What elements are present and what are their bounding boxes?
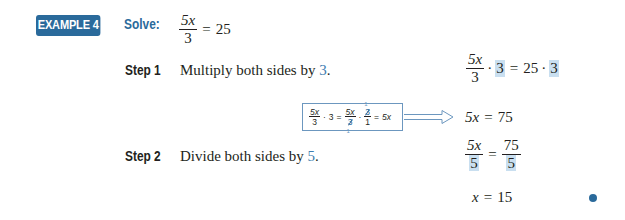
- factor: 3: [329, 112, 334, 122]
- callout-fraction-2: 5x 3 1: [345, 108, 356, 127]
- equals-sign: =: [374, 112, 379, 122]
- desc-suffix: .: [327, 62, 331, 78]
- arrow-right-icon: [404, 110, 454, 124]
- cancelled-numerator: 3: [365, 107, 370, 117]
- equals-sign: =: [510, 60, 518, 77]
- cancelled-denominator: 3: [348, 117, 353, 127]
- step-2-description: Divide both sides by 5.: [180, 148, 319, 165]
- step-1-work: 5x 3 · 3 = 25 · 3: [466, 52, 559, 85]
- equals-sign: =: [488, 146, 496, 163]
- numerator: 5x: [467, 137, 481, 153]
- desc-text: Divide both sides by: [180, 148, 308, 164]
- simplification-callout: 5x 3 · 3 = 5x 3 1 · 3 1 1 = 5x: [302, 103, 403, 131]
- highlighted-factor: 3: [495, 60, 505, 77]
- rhs-value: 25: [523, 60, 538, 77]
- lhs: 5x: [465, 109, 479, 126]
- solve-label: Solve:: [124, 16, 160, 32]
- equals-sign: =: [202, 21, 210, 38]
- step-1-label: Step 1: [125, 62, 161, 78]
- cancel-mark-bottom: 1: [347, 128, 350, 134]
- lhs-fraction: 5x 5: [465, 138, 483, 171]
- highlighted-denominator: 5: [469, 155, 479, 171]
- equals-sign: =: [484, 189, 492, 206]
- example-badge: EXAMPLE 4: [36, 15, 100, 36]
- callout-fraction-3: 3 1 1: [364, 108, 371, 127]
- denominator: 3: [312, 117, 317, 127]
- end-of-example-bullet-icon: [589, 194, 597, 202]
- callout-result: 5x: [382, 112, 391, 122]
- equals-sign: =: [484, 109, 492, 126]
- desc-suffix: .: [315, 148, 319, 164]
- final-answer: x = 15: [472, 189, 512, 206]
- step-2-work: 5x 5 = 75 5: [465, 138, 521, 171]
- denominator: 1: [365, 117, 370, 127]
- rhs: 15: [497, 189, 512, 206]
- problem-fraction: 5x 3: [179, 13, 197, 46]
- step-1-description: Multiply both sides by 3.: [180, 62, 330, 79]
- numerator: 5x: [468, 51, 482, 67]
- work-fraction: 5x 3: [466, 52, 484, 85]
- desc-text: Multiply both sides by: [180, 62, 319, 78]
- denominator: 3: [184, 30, 192, 46]
- numerator: 5x: [181, 12, 195, 28]
- problem-equation: 5x 3 = 25: [179, 13, 231, 46]
- rhs-fraction: 75 5: [502, 138, 521, 171]
- cancel-mark-top: 1: [364, 101, 367, 107]
- equals-sign: =: [337, 112, 342, 122]
- step-1-result: 5x = 75: [465, 109, 513, 126]
- numerator: 5x: [346, 107, 355, 117]
- lhs: x: [472, 189, 479, 206]
- rhs: 75: [498, 109, 513, 126]
- callout-fraction-1: 5x 3: [309, 108, 320, 127]
- highlighted-factor: 3: [549, 60, 559, 77]
- multiply-sign: ·: [541, 60, 546, 77]
- rhs-value: 25: [216, 21, 231, 38]
- desc-value: 3: [319, 62, 327, 78]
- numerator: 75: [502, 138, 521, 155]
- multiply-sign: ·: [359, 112, 362, 122]
- highlighted-denominator: 5: [506, 155, 516, 171]
- denominator: 3: [471, 69, 479, 85]
- numerator: 5x: [310, 107, 319, 117]
- multiply-sign: ·: [487, 60, 492, 77]
- multiply-sign: ·: [323, 112, 326, 122]
- step-2-label: Step 2: [125, 148, 161, 164]
- desc-value: 5: [308, 148, 316, 164]
